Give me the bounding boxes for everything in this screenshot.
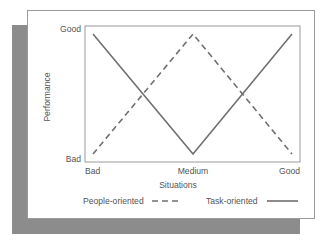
y-tick-label-good: Good <box>60 24 81 34</box>
legend-label-task-oriented: Task-oriented <box>206 196 258 206</box>
y-tick-label-bad: Bad <box>66 154 82 164</box>
series-people-oriented <box>93 34 292 154</box>
plot-area-frame <box>85 26 300 162</box>
x-tick-label-good: Good <box>279 166 300 176</box>
x-tick-label-medium: Medium <box>178 166 209 176</box>
x-tick-label-bad: Bad <box>85 166 101 176</box>
y-axis-title: Performance <box>42 72 52 121</box>
chart-svg: Good Bad Performance Bad Medium Good Sit… <box>0 0 330 242</box>
legend: People-oriented Task-oriented <box>83 196 298 206</box>
legend-label-people-oriented: People-oriented <box>83 196 144 206</box>
series-task-oriented <box>93 34 292 154</box>
x-axis-title: Situations <box>159 180 197 190</box>
